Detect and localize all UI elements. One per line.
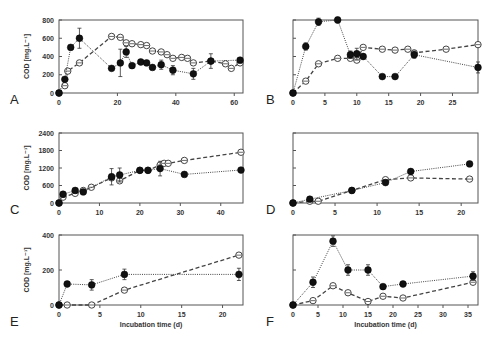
filled-data-point — [170, 67, 177, 74]
open-series-line — [293, 45, 478, 93]
filled-data-point — [360, 53, 367, 60]
plot-frame — [293, 133, 478, 203]
filled-data-point — [88, 281, 95, 288]
x-tick-label: 40 — [172, 99, 180, 106]
panel-c-chart: 0600120018002400010203040COD [mg.L⁻¹]C — [10, 130, 244, 218]
x-tick-label: 30 — [439, 311, 447, 318]
filled-data-point — [348, 187, 355, 194]
filled-data-point — [56, 90, 63, 97]
x-tick-label: 20 — [457, 209, 465, 216]
filled-data-point — [302, 43, 309, 50]
x-tick-label: 15 — [364, 311, 372, 318]
x-tick-label: 0 — [291, 209, 295, 216]
plot-frame — [59, 235, 243, 305]
filled-data-point — [143, 59, 150, 66]
x-tick-label: 5 — [316, 311, 320, 318]
x-axis-label: Incubation time (d) — [120, 321, 183, 329]
filled-data-point — [145, 167, 152, 174]
filled-data-point — [117, 59, 124, 66]
x-tick-label: 0 — [291, 311, 295, 318]
y-tick-label: 1800 — [38, 147, 54, 154]
y-tick-label: 1200 — [38, 165, 54, 172]
filled-data-point — [400, 281, 407, 288]
filled-data-point — [347, 51, 354, 58]
x-tick-label: 10 — [373, 209, 381, 216]
filled-data-point — [56, 200, 63, 207]
filled-data-point — [108, 173, 115, 180]
y-tick-label: 400 — [42, 232, 54, 239]
filled-data-point — [108, 65, 115, 72]
filled-data-point — [67, 44, 74, 51]
filled-series-line — [293, 164, 470, 203]
filled-data-point — [334, 17, 341, 24]
x-tick-label: 5 — [333, 209, 337, 216]
panel-b-chart: 0510152025B — [266, 17, 481, 107]
filled-data-point — [310, 279, 317, 286]
x-tick-label: 10 — [96, 209, 104, 216]
filled-data-point — [290, 90, 297, 97]
filled-data-point — [330, 238, 337, 245]
filled-data-point — [290, 200, 297, 207]
filled-data-point — [379, 73, 386, 80]
y-axis-label: COD [mg.L⁻¹] — [23, 145, 31, 190]
filled-data-point — [315, 18, 322, 25]
y-tick-label: 2400 — [38, 130, 54, 137]
open-series-line — [59, 255, 239, 305]
filled-data-point — [158, 61, 165, 68]
filled-data-point — [116, 172, 123, 179]
x-tick-label: 20 — [219, 311, 227, 318]
x-tick-label: 20 — [389, 311, 397, 318]
x-tick-label: 25 — [449, 99, 457, 106]
filled-data-point — [129, 62, 136, 69]
x-tick-label: 20 — [114, 99, 122, 106]
y-axis-label: COD [mg.L⁻¹] — [23, 34, 31, 79]
panel-a-chart: 02004006008000204060COD [mg.L⁻¹]A — [10, 17, 243, 108]
filled-data-point — [64, 281, 71, 288]
y-tick-label: 200 — [42, 71, 54, 78]
y-tick-label: 0 — [50, 302, 54, 309]
x-tick-label: 0 — [291, 99, 295, 106]
filled-data-point — [353, 50, 360, 57]
filled-data-point — [380, 283, 387, 290]
panel-label: D — [266, 202, 275, 217]
filled-data-point — [80, 189, 87, 196]
panel-d-chart: 05101520D — [266, 133, 478, 217]
filled-data-point — [475, 64, 482, 71]
x-tick-label: 0 — [57, 99, 61, 106]
x-tick-label: 40 — [217, 209, 225, 216]
filled-series-line — [59, 169, 241, 203]
x-tick-label: 15 — [415, 209, 423, 216]
filled-data-point — [365, 267, 372, 274]
filled-data-point — [466, 161, 473, 168]
panel-f-chart: 05101520253035Incubation time (d)F — [266, 235, 478, 329]
x-tick-label: 0 — [57, 209, 61, 216]
filled-data-point — [181, 171, 188, 178]
filled-data-point — [60, 191, 67, 198]
filled-data-point — [121, 271, 128, 278]
y-tick-label: 400 — [42, 53, 54, 60]
filled-data-point — [76, 35, 83, 42]
filled-series-line — [293, 20, 478, 93]
panel-label: A — [10, 92, 19, 107]
panel-label: E — [10, 314, 19, 329]
filled-data-point — [157, 165, 164, 172]
filled-data-point — [407, 168, 414, 175]
y-tick-label: 800 — [42, 17, 54, 24]
x-tick-label: 10 — [137, 311, 145, 318]
y-axis-label: COD [mg.L⁻¹] — [23, 247, 31, 292]
y-tick-label: 0 — [50, 200, 54, 207]
x-tick-label: 20 — [136, 209, 144, 216]
filled-data-point — [123, 49, 130, 56]
filled-series-line — [59, 274, 239, 305]
filled-data-point — [72, 187, 79, 194]
x-tick-label: 5 — [323, 99, 327, 106]
y-tick-label: 600 — [42, 35, 54, 42]
filled-data-point — [306, 196, 313, 203]
panel-label: F — [266, 314, 274, 329]
x-tick-label: 20 — [417, 99, 425, 106]
x-tick-label: 30 — [176, 209, 184, 216]
x-tick-label: 60 — [230, 99, 238, 106]
x-tick-label: 0 — [57, 311, 61, 318]
filled-data-point — [392, 73, 399, 80]
panel-e-chart: 020040005101520COD [mg.L⁻¹]Incubation ti… — [10, 232, 243, 330]
